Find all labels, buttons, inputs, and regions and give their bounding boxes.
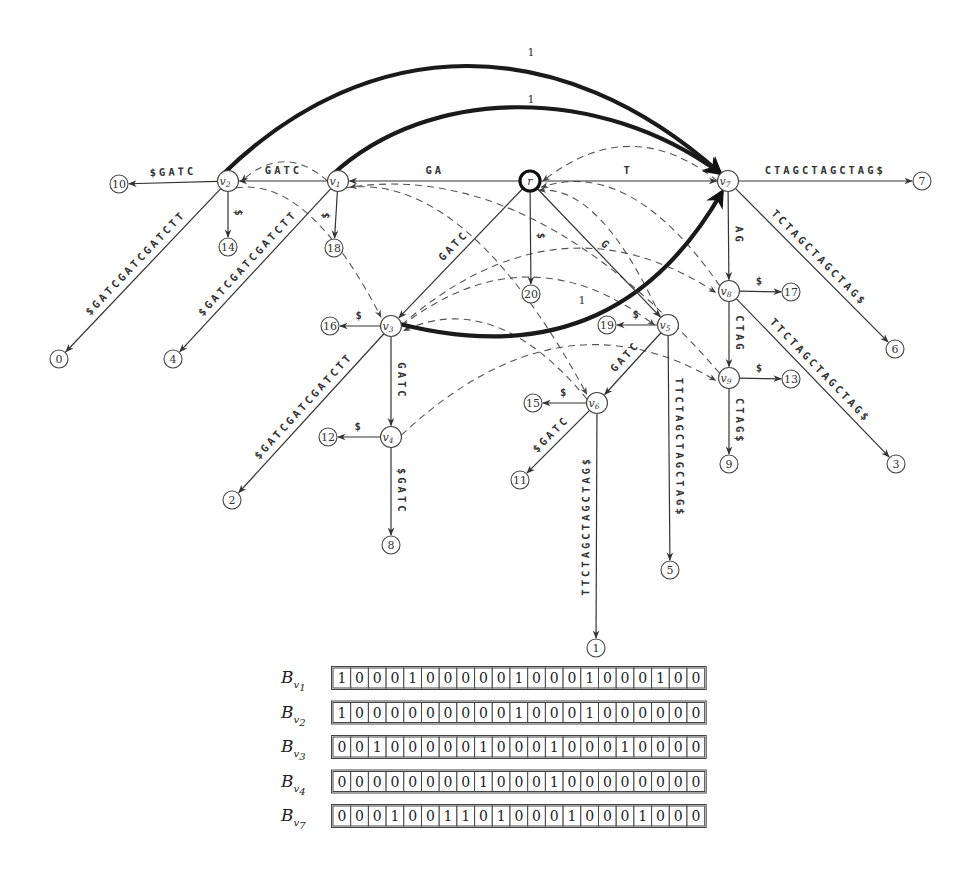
svg-text:0: 0 [514, 808, 523, 824]
tree-edge-v2-L10 [129, 181, 218, 183]
svg-text:0: 0 [444, 670, 453, 686]
svg-text:0: 0 [550, 670, 559, 686]
svg-text:20: 20 [524, 288, 538, 301]
svg-text:0: 0 [408, 774, 417, 790]
svg-text:0: 0 [674, 808, 683, 824]
bit-vector-v4: Bv4000000001000100000000 [280, 770, 706, 797]
edge-label: $ [560, 386, 569, 398]
bit-vector-label: Bv1 [280, 667, 306, 693]
leaf-4: 4 [164, 350, 182, 368]
svg-text:0: 0 [691, 705, 700, 721]
edge-label: TTCTAGCTAGCTAG$ [673, 378, 686, 518]
svg-text:1: 1 [514, 705, 523, 721]
svg-text:17: 17 [784, 286, 798, 299]
svg-text:0: 0 [408, 808, 417, 824]
leaf-13: 13 [782, 370, 800, 388]
svg-text:0: 0 [621, 705, 630, 721]
svg-text:0: 0 [497, 705, 506, 721]
edge-label: AG [733, 226, 745, 245]
tree-edge-r-L20 [530, 191, 531, 284]
weighted-links-layer: 111 [222, 46, 722, 336]
tree-edges-layer: GATGATCG$GATC$$GATCGATCGATCTT$GATC$$GATC… [66, 164, 912, 638]
svg-text:0: 0 [621, 774, 630, 790]
tree-edge-v7-v8 [728, 191, 729, 279]
svg-text:0: 0 [656, 739, 665, 755]
bit-vector-label: Bv2 [280, 702, 306, 728]
svg-text:9: 9 [726, 458, 733, 471]
leaf-7: 7 [913, 172, 931, 190]
svg-text:0: 0 [355, 739, 364, 755]
svg-text:15: 15 [526, 397, 540, 410]
svg-text:0: 0 [390, 705, 399, 721]
svg-text:0: 0 [426, 808, 435, 824]
tree-edge-v9-L13 [739, 378, 781, 379]
leaf-9: 9 [720, 455, 738, 473]
bit-vector-label: Bv7 [280, 805, 306, 831]
svg-text:1: 1 [337, 670, 346, 686]
edge-label: GA [425, 164, 444, 176]
suffix-link-v9-v1 [350, 184, 720, 373]
leaf-20: 20 [522, 285, 540, 303]
svg-text:0: 0 [532, 739, 541, 755]
svg-text:0: 0 [497, 774, 506, 790]
svg-text:0: 0 [656, 705, 665, 721]
leaf-16: 16 [321, 317, 339, 335]
svg-text:0: 0 [674, 774, 683, 790]
edge-label: $GATCGATCGATCTT [195, 207, 299, 318]
svg-text:1: 1 [550, 774, 559, 790]
svg-text:0: 0 [532, 705, 541, 721]
edge-label: GATC [436, 228, 470, 263]
svg-text:0: 0 [691, 670, 700, 686]
edge-label: CTAG [734, 315, 746, 352]
svg-text:1: 1 [408, 670, 417, 686]
tree-edge-v7-L6 [735, 188, 888, 341]
leaf-11: 11 [511, 471, 529, 489]
svg-text:14: 14 [221, 241, 235, 254]
svg-text:0: 0 [426, 705, 435, 721]
svg-text:19: 19 [600, 319, 614, 332]
svg-text:0: 0 [638, 739, 647, 755]
svg-text:0: 0 [567, 670, 576, 686]
svg-text:0: 0 [390, 739, 399, 755]
svg-text:1: 1 [479, 774, 488, 790]
suffix-tree-diagram: 111 GATGATCG$GATC$$GATCGATCGATCTT$GATC$$… [0, 0, 977, 873]
svg-text:16: 16 [323, 320, 337, 333]
svg-text:0: 0 [461, 705, 470, 721]
svg-text:0: 0 [390, 774, 399, 790]
svg-text:1: 1 [337, 705, 346, 721]
svg-text:r: r [527, 175, 533, 188]
leaf-18: 18 [325, 239, 343, 257]
svg-text:3: 3 [893, 458, 900, 471]
svg-text:0: 0 [691, 774, 700, 790]
svg-text:6: 6 [892, 343, 899, 356]
svg-text:0: 0 [426, 774, 435, 790]
weighted-link-label: 1 [579, 294, 586, 307]
svg-text:1: 1 [479, 739, 488, 755]
svg-text:0: 0 [638, 670, 647, 686]
bit-vectors-table: Bv1100010000010001000100Bv21000000000100… [280, 667, 706, 832]
edge-label: $ [756, 361, 766, 373]
weighted-link-label: 1 [528, 93, 535, 106]
leaf-6: 6 [886, 340, 904, 358]
svg-text:12: 12 [321, 431, 335, 444]
svg-text:0: 0 [479, 705, 488, 721]
svg-text:0: 0 [479, 808, 488, 824]
svg-text:0: 0 [674, 670, 683, 686]
svg-text:0: 0 [603, 705, 612, 721]
svg-text:0: 0 [461, 774, 470, 790]
svg-text:1: 1 [656, 670, 665, 686]
tree-edge-v5-L5 [668, 335, 670, 560]
svg-text:5: 5 [667, 564, 674, 577]
svg-text:0: 0 [337, 774, 346, 790]
svg-text:0: 0 [532, 774, 541, 790]
svg-text:0: 0 [337, 739, 346, 755]
leaf-10: 10 [110, 175, 128, 193]
svg-text:0: 0 [532, 808, 541, 824]
leaf-1: 1 [587, 639, 605, 657]
tree-edge-v6-L1 [596, 413, 597, 638]
edge-label: T [624, 164, 633, 176]
svg-text:0: 0 [373, 705, 382, 721]
svg-text:0: 0 [461, 739, 470, 755]
svg-text:0: 0 [621, 670, 630, 686]
edge-label: CTAG$ [734, 398, 746, 445]
